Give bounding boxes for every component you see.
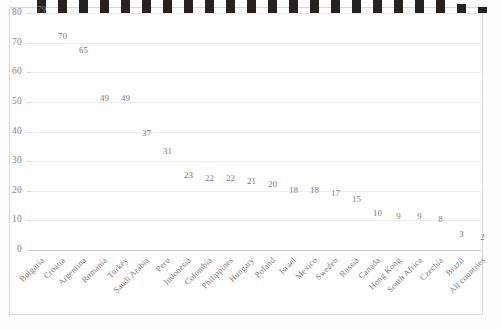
bar — [247, 0, 256, 13]
gridline — [31, 132, 481, 133]
gridline — [31, 191, 481, 192]
y-axis-tick-label: 70 — [0, 37, 22, 47]
gridline — [31, 43, 481, 44]
bar — [58, 0, 67, 13]
y-axis-tick-label: 40 — [0, 126, 22, 136]
bar — [415, 0, 424, 13]
bar — [163, 0, 172, 13]
bar — [436, 0, 445, 13]
bar — [100, 0, 109, 13]
bar — [226, 0, 235, 13]
y-axis-tick-mark — [27, 43, 31, 44]
bar-value-label: 8 — [428, 214, 454, 224]
y-axis-tick-label: 0 — [0, 244, 22, 254]
plot-area: 797065494937312322222120181817151099832 — [31, 13, 481, 250]
bar — [457, 4, 466, 13]
bar-value-label: 79 — [29, 4, 55, 14]
bar-value-label: 65 — [71, 45, 97, 55]
bar — [373, 0, 382, 13]
bar — [184, 0, 193, 13]
y-axis-tick-label: 20 — [0, 185, 22, 195]
y-axis-tick-label: 10 — [0, 214, 22, 224]
bar — [310, 0, 319, 13]
figure: 797065494937312322222120181817151099832 … — [0, 0, 501, 329]
y-axis-tick-label: 60 — [0, 66, 22, 76]
bar — [268, 0, 277, 13]
bar — [205, 0, 214, 13]
y-axis-tick-mark — [27, 72, 31, 73]
bar-value-label: 70 — [50, 31, 76, 41]
bar — [79, 0, 88, 13]
gridline — [31, 72, 481, 73]
bar — [121, 0, 130, 13]
bar — [289, 0, 298, 13]
gridline — [31, 161, 481, 162]
bar — [142, 0, 151, 13]
y-axis-tick-mark — [27, 102, 31, 103]
y-axis-tick-mark — [27, 132, 31, 133]
bar-value-label: 15 — [344, 194, 370, 204]
bar-value-label: 49 — [113, 93, 139, 103]
bar — [478, 7, 487, 13]
y-axis-tick-label: 80 — [0, 7, 22, 17]
bar-value-label: 2 — [470, 232, 496, 242]
bar — [352, 0, 361, 13]
bar-value-label: 37 — [134, 128, 160, 138]
y-axis-tick-mark — [27, 161, 31, 162]
y-axis-tick-mark — [27, 220, 31, 221]
y-axis-tick-mark — [27, 191, 31, 192]
bar-value-label: 31 — [155, 146, 181, 156]
x-axis-line — [31, 250, 481, 251]
bar — [394, 0, 403, 13]
gridline — [31, 13, 481, 14]
y-axis-tick-label: 50 — [0, 96, 22, 106]
y-axis-tick-label: 30 — [0, 155, 22, 165]
bar — [331, 0, 340, 13]
